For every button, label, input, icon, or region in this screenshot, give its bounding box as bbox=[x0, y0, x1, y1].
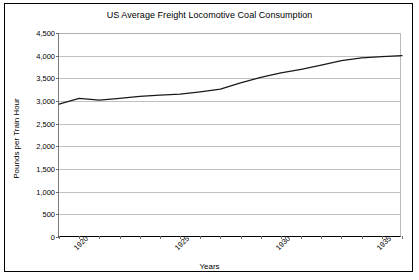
y-axis-label: Pounds per Train Hour bbox=[12, 89, 21, 189]
chart-title: US Average Freight Locomotive Coal Consu… bbox=[5, 10, 414, 20]
y-tick-label: 3,000 bbox=[36, 97, 55, 106]
y-tick-label: 2,500 bbox=[36, 119, 55, 128]
x-axis-label: Years bbox=[5, 262, 414, 271]
y-tick-label: 1,500 bbox=[36, 165, 55, 174]
chart-frame: US Average Freight Locomotive Coal Consu… bbox=[4, 3, 413, 272]
plot-area: 05001,0001,5002,0002,5003,0003,5004,0004… bbox=[58, 33, 401, 237]
data-series-line bbox=[59, 33, 402, 237]
y-tick-label: 4,500 bbox=[36, 29, 55, 38]
x-tick-mark bbox=[402, 236, 403, 239]
y-tick-label: 0 bbox=[51, 233, 55, 242]
y-tick-label: 1,000 bbox=[36, 187, 55, 196]
y-tick-label: 3,500 bbox=[36, 74, 55, 83]
y-tick-label: 500 bbox=[42, 210, 55, 219]
y-tick-label: 4,000 bbox=[36, 51, 55, 60]
y-tick-label: 2,000 bbox=[36, 142, 55, 151]
